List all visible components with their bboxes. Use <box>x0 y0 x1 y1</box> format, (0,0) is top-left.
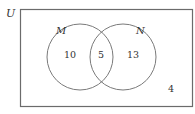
set-m-label: M <box>55 25 67 36</box>
m-only-count: 10 <box>64 49 76 60</box>
set-n-label: N <box>135 25 146 36</box>
outside-count: 4 <box>168 83 174 94</box>
universe-rectangle <box>21 10 193 107</box>
n-only-count: 13 <box>127 49 139 60</box>
intersection-count: 5 <box>98 49 104 60</box>
universe-label: U <box>6 7 16 20</box>
venn-diagram: U M N 10 5 13 4 <box>0 0 195 114</box>
